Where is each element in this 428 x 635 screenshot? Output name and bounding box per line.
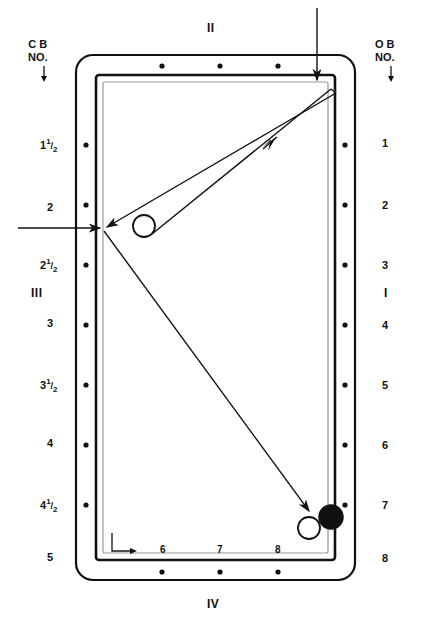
left-scale-item-4: 31/2 bbox=[40, 378, 58, 394]
object-ball-number-header: O B NO. bbox=[375, 38, 395, 63]
left-scale-whole-7: 5 bbox=[47, 551, 53, 563]
diagram-page: II IV III I C B NO. O B NO. 11/2 2 21/2 … bbox=[0, 0, 428, 635]
object-ball-white bbox=[298, 517, 320, 539]
left-scale-item-2: 21/2 bbox=[40, 258, 58, 274]
right-scale-item-5: 6 bbox=[382, 440, 388, 451]
object-ball-black bbox=[319, 505, 343, 529]
right-scale-item-2: 3 bbox=[382, 260, 388, 271]
right-scale-item-3: 4 bbox=[382, 320, 388, 331]
label-quadrant-right: I bbox=[384, 287, 388, 299]
left-scale-item-0: 11/2 bbox=[40, 138, 58, 154]
table-cloth-line bbox=[103, 82, 328, 553]
left-scale-item-3: 3 bbox=[47, 318, 53, 329]
right-scale-item-0: 1 bbox=[382, 138, 388, 149]
right-scale-item-6: 7 bbox=[382, 500, 388, 511]
label-quadrant-bottom: IV bbox=[207, 598, 219, 610]
left-scale-item-6: 41/2 bbox=[40, 498, 58, 514]
left-scale-whole-5: 4 bbox=[47, 437, 53, 449]
left-scale-whole-3: 3 bbox=[47, 317, 53, 329]
down-arrow-icon-left bbox=[38, 66, 50, 82]
left-scale-den-2: 2 bbox=[53, 265, 57, 274]
bottom-scale-item-2: 8 bbox=[275, 544, 281, 555]
object-ball-number-header-line2: NO. bbox=[375, 51, 395, 64]
left-scale-den-4: 2 bbox=[53, 385, 57, 394]
label-quadrant-top: II bbox=[207, 22, 215, 34]
bottom-scale-item-0: 6 bbox=[160, 544, 166, 555]
cue-ball-number-header-line2: NO. bbox=[28, 51, 48, 64]
right-scale-item-1: 2 bbox=[382, 200, 388, 211]
left-scale-item-1: 2 bbox=[47, 202, 53, 213]
bottom-scale-item-1: 7 bbox=[217, 544, 223, 555]
left-scale-den-6: 2 bbox=[53, 505, 57, 514]
label-quadrant-left: III bbox=[31, 287, 43, 299]
billiard-table-diagram bbox=[0, 0, 428, 635]
cue-ball-number-header-line1: C B bbox=[28, 38, 48, 51]
left-scale-den-0: 2 bbox=[53, 145, 57, 154]
object-ball-number-header-line1: O B bbox=[375, 38, 395, 51]
right-scale-item-7: 8 bbox=[382, 553, 388, 564]
cue-ball-number-header: C B NO. bbox=[28, 38, 48, 63]
right-scale-item-4: 5 bbox=[382, 380, 388, 391]
left-scale-item-5: 4 bbox=[47, 438, 53, 449]
left-scale-item-7: 5 bbox=[47, 552, 53, 563]
left-scale-whole-1: 2 bbox=[47, 201, 53, 213]
down-arrow-icon-right bbox=[385, 66, 397, 82]
cue-ball bbox=[133, 215, 155, 237]
